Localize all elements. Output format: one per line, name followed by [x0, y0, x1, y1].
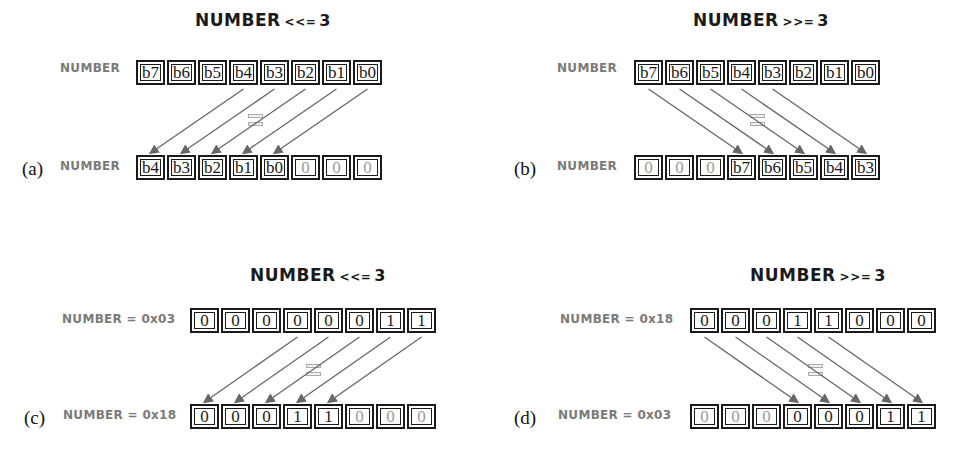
equals-marker-icon	[808, 364, 823, 378]
bit-cell: b4	[820, 155, 849, 180]
bit-cell: 1	[783, 308, 812, 333]
panel-d-bottom-label: NUMBER = 0x03	[558, 408, 671, 422]
bit-cell: 0	[721, 308, 750, 333]
title-variable: NUMBER	[693, 10, 779, 30]
panel-d-top-bits: 00011000	[690, 308, 936, 333]
panel-c-bottom-label: NUMBER = 0x18	[63, 408, 176, 422]
bit-cell: 0	[353, 155, 382, 180]
panel-d-label: (d)	[514, 407, 536, 429]
bit-cell: b3	[260, 60, 289, 85]
equals-marker-icon	[750, 114, 765, 128]
panel-c-title: NUMBER<<=3	[250, 265, 386, 285]
bit-cell: 0	[322, 155, 351, 180]
bit-cell: 0	[752, 308, 781, 333]
bit-cell: 0	[190, 404, 219, 429]
shift-arrow-icon	[329, 337, 422, 402]
title-operator: <<=	[340, 270, 372, 284]
bit-cell: b3	[758, 60, 787, 85]
panel-b-title: NUMBER>>=3	[693, 10, 829, 30]
bit-cell: 0	[345, 308, 374, 333]
equals-marker-icon	[248, 114, 263, 128]
bit-cell: b4	[136, 155, 165, 180]
panel-c-label: (c)	[24, 407, 45, 429]
title-operator: >>=	[783, 15, 815, 29]
panel-b-bottom-label: NUMBER	[557, 159, 617, 173]
shift-arrow-icon	[649, 89, 742, 153]
bit-cell: 0	[291, 155, 320, 180]
bit-cell: 1	[876, 404, 905, 429]
bit-cell: 0	[634, 155, 663, 180]
shift-arrow-icon	[275, 89, 368, 153]
panel-a-bottom-label: NUMBER	[60, 159, 120, 173]
bit-cell: b1	[322, 60, 351, 85]
bit-cell: 0	[690, 404, 719, 429]
bit-cell: b5	[198, 60, 227, 85]
panel-a-label: (a)	[22, 158, 43, 180]
panel-c-bottom-bits: 00011000	[190, 404, 436, 429]
panel-a-title: NUMBER<<=3	[195, 10, 331, 30]
bit-cell: 0	[221, 308, 250, 333]
bit-cell: b0	[260, 155, 289, 180]
bit-cell: b1	[820, 60, 849, 85]
bit-cell: 1	[376, 308, 405, 333]
equals-marker-icon	[306, 364, 321, 378]
shift-arrow-icon	[205, 337, 298, 402]
bit-cell: 0	[876, 308, 905, 333]
bit-cell: 0	[845, 308, 874, 333]
bit-cell: 0	[345, 404, 374, 429]
panel-b-top-label: NUMBER	[557, 61, 617, 75]
bit-cell: b5	[696, 60, 725, 85]
bit-cell: b3	[851, 155, 880, 180]
panel-a-bottom-bits: b4b3b2b1b0000	[136, 155, 382, 180]
title-shift-amount: 3	[374, 266, 386, 285]
bit-cell: b7	[136, 60, 165, 85]
title-variable: NUMBER	[195, 10, 281, 30]
title-shift-amount: 3	[874, 266, 886, 285]
bit-cell: b2	[291, 60, 320, 85]
shift-arrow-icon	[829, 337, 922, 402]
bit-cell: b7	[727, 155, 756, 180]
panel-b-bottom-bits: 000b7b6b5b4b3	[634, 155, 880, 180]
bit-cell: 1	[283, 404, 312, 429]
bit-cell: 0	[252, 404, 281, 429]
panel-d-top-label: NUMBER = 0x18	[560, 312, 673, 326]
panel-b-label: (b)	[514, 158, 536, 180]
bit-cell: b4	[727, 60, 756, 85]
shift-arrow-icon	[151, 89, 244, 153]
bit-shift-figure: NUMBER<<=3 NUMBER b7b6b5b4b3b2b1b0 (a) N…	[0, 0, 964, 463]
panel-b-top-bits: b7b6b5b4b3b2b1b0	[634, 60, 880, 85]
bit-cell: 1	[314, 404, 343, 429]
bit-cell: b2	[198, 155, 227, 180]
panel-c-top-bits: 00000011	[190, 308, 436, 333]
bit-cell: 0	[283, 308, 312, 333]
bit-cell: b0	[353, 60, 382, 85]
bit-cell: b0	[851, 60, 880, 85]
bit-cell: 1	[407, 308, 436, 333]
bit-cell: 0	[721, 404, 750, 429]
bit-cell: 0	[376, 404, 405, 429]
bit-cell: b3	[167, 155, 196, 180]
bit-cell: b7	[634, 60, 663, 85]
bit-cell: b5	[789, 155, 818, 180]
shift-arrow-icon	[705, 337, 798, 402]
panel-d-bottom-bits: 00000011	[690, 404, 936, 429]
bit-cell: 0	[221, 404, 250, 429]
bit-cell: b6	[758, 155, 787, 180]
bit-cell: 0	[845, 404, 874, 429]
bit-cell: 0	[665, 155, 694, 180]
bit-cell: b4	[229, 60, 258, 85]
bit-cell: 0	[814, 404, 843, 429]
title-variable: NUMBER	[750, 265, 836, 285]
bit-cell: 0	[690, 308, 719, 333]
bit-cell: 0	[407, 404, 436, 429]
bit-cell: 0	[783, 404, 812, 429]
title-shift-amount: 3	[817, 11, 829, 30]
panel-d-title: NUMBER>>=3	[750, 265, 886, 285]
bit-cell: b6	[167, 60, 196, 85]
bit-cell: b6	[665, 60, 694, 85]
panel-c-top-label: NUMBER = 0x03	[62, 312, 175, 326]
bit-cell: 0	[752, 404, 781, 429]
bit-cell: 1	[814, 308, 843, 333]
panel-a-top-label: NUMBER	[60, 61, 120, 75]
title-variable: NUMBER	[250, 265, 336, 285]
